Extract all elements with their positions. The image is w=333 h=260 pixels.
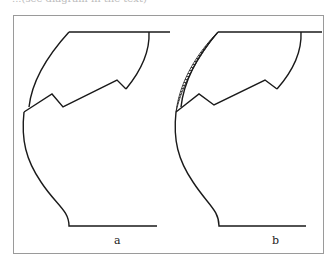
panel-b: [175, 32, 322, 226]
panel-b-zigzag: [176, 80, 277, 112]
panel-b-upper-left-arc: [181, 32, 218, 107]
figure-drawing: [0, 0, 333, 260]
panel-a-zigzag: [24, 80, 126, 112]
panel-a-upper-right-arc: [126, 32, 149, 89]
panel-b-label: b: [272, 234, 279, 247]
panel-a-label: a: [114, 234, 121, 247]
panel-b-upper-right-arc: [277, 32, 301, 89]
panel-a-lower-outline: [23, 112, 157, 226]
panel-b-lower-outline: [175, 112, 306, 226]
panel-a: [23, 32, 170, 226]
